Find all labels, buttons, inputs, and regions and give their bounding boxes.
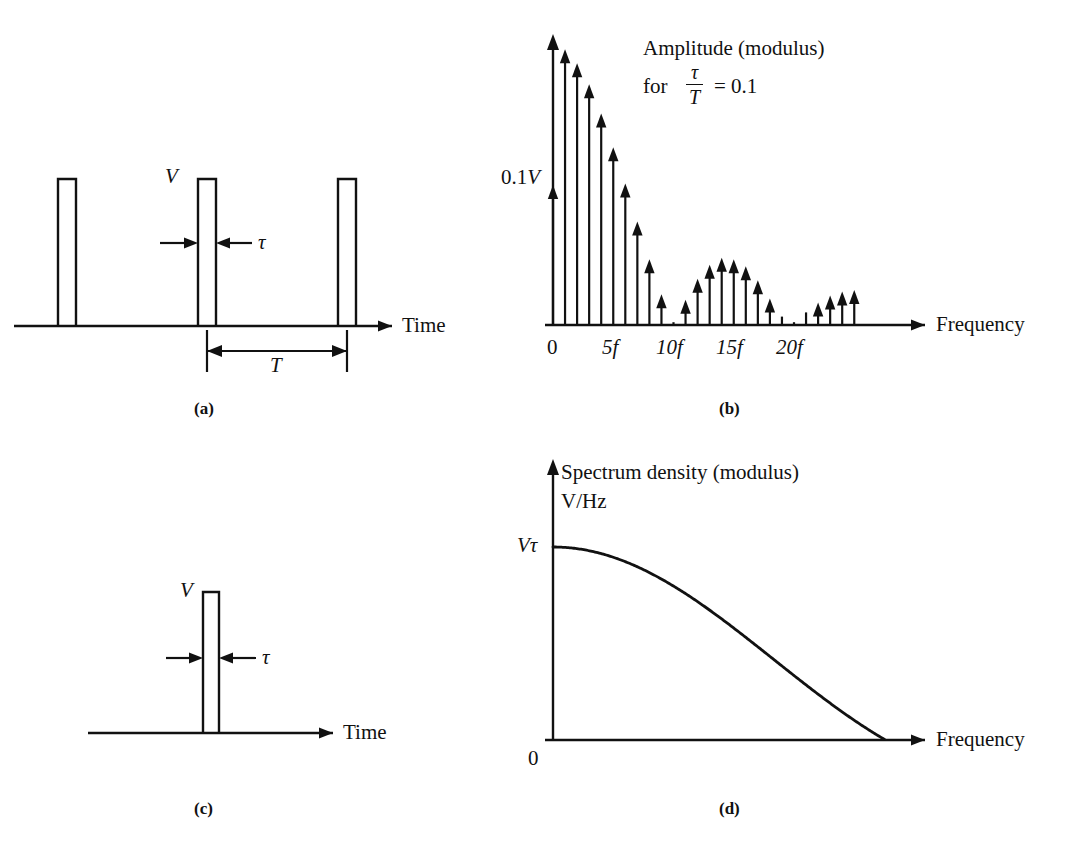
- spectral-line-3f: [584, 84, 594, 325]
- panel-d-caption: (d): [719, 800, 740, 817]
- spectral-line-4f: [596, 114, 606, 325]
- panel-d-y-axis-label: Vτ: [517, 535, 537, 556]
- panel-c-tau-arrow-left-head: [189, 653, 203, 664]
- panel-b-y-axis-arrowhead: [547, 34, 559, 50]
- panel-a-pulse-3: [338, 179, 356, 326]
- panel-d-title-line1: Spectrum density (modulus): [561, 462, 799, 483]
- spectral-line-11f: [680, 300, 690, 325]
- spectral-line-17f: [753, 280, 763, 325]
- fraction-bar: [686, 84, 703, 85]
- fraction-numerator-tau: τ: [686, 62, 703, 82]
- spectral-line-2f: [572, 63, 582, 325]
- figure-root: [0, 0, 1080, 846]
- panel-b-x-axis-arrowhead: [911, 320, 925, 331]
- panel-c-tau-arrow-right-head: [219, 653, 233, 664]
- panel-b-xtick-10f: 10f: [656, 337, 683, 358]
- spectral-line-18f: [765, 298, 775, 325]
- spectral-line-0: [548, 185, 558, 325]
- panel-b-y-axis-number: 0.1: [501, 165, 527, 189]
- panel-c-tau-label: τ: [262, 647, 270, 668]
- panel-c-axis-arrowhead: [319, 728, 333, 739]
- panel-b-xtick-15f: 15f: [716, 337, 743, 358]
- spectral-line-7f: [632, 221, 642, 325]
- panel-a-tau-arrow-right-head: [216, 238, 230, 249]
- fraction-denominator-T: T: [686, 87, 703, 107]
- panel-b-xtick-0: 0: [547, 337, 558, 358]
- panel-b-y-axis-label: 0.1V: [501, 167, 540, 188]
- panel-a-axis-arrowhead: [378, 321, 392, 332]
- spectral-line-13f: [704, 265, 714, 325]
- panel-a-caption: (a): [194, 400, 214, 417]
- panel-a-pulse-1: [58, 179, 76, 326]
- panel-b-title-line2-prefix: for: [643, 76, 668, 97]
- panel-b-title-line1: Amplitude (modulus): [643, 38, 824, 59]
- panel-a-tau-arrow-left-head: [184, 238, 198, 249]
- spectral-line-24f: [837, 291, 847, 325]
- panel-c-caption: (c): [194, 800, 213, 817]
- panel-a: [14, 179, 392, 372]
- spectral-line-22f: [813, 303, 823, 325]
- panel-d-origin-label: 0: [528, 748, 539, 769]
- panel-b-xtick-20f: 20f: [776, 337, 803, 358]
- panel-d-x-axis-arrowhead: [911, 735, 925, 746]
- panel-c-pulse: [203, 592, 219, 733]
- panel-c: [88, 592, 333, 739]
- spectral-line-23f: [825, 296, 835, 325]
- spectral-line-6f: [620, 184, 630, 325]
- panel-b-xtick-5f: 5f: [602, 337, 618, 358]
- spectral-line-8f: [644, 259, 654, 325]
- spectral-line-1f: [560, 49, 570, 325]
- panel-a-amplitude-label: V: [165, 166, 178, 187]
- panel-a-tau-label: τ: [258, 232, 266, 253]
- panel-d-y-axis-arrowhead: [547, 459, 559, 475]
- spectral-line-5f: [608, 147, 618, 325]
- panel-c-time-axis-label: Time: [343, 722, 387, 743]
- panel-a-pulse-2: [198, 179, 216, 326]
- panel-d-title-line2: V/Hz: [561, 491, 607, 512]
- spectral-line-9f: [656, 294, 666, 325]
- spectral-line-16f: [741, 266, 751, 325]
- panel-b-tau-over-T-fraction: τ T: [686, 62, 703, 107]
- spectral-line-14f: [717, 258, 727, 325]
- panel-c-amplitude-label: V: [180, 580, 193, 601]
- panel-b-caption: (b): [719, 400, 740, 417]
- panel-b-x-axis-label: Frequency: [936, 314, 1025, 335]
- panel-b-y-axis-symbol: V: [527, 165, 540, 189]
- panel-b-title-line2-suffix: = 0.1: [714, 76, 757, 97]
- spectral-line-12f: [692, 279, 702, 325]
- panel-d-x-axis-label: Frequency: [936, 729, 1025, 750]
- panel-d-sinc-envelope-curve: [553, 547, 885, 740]
- panel-a-period-arrowhead-left: [207, 345, 222, 357]
- panel-a-time-axis-label: Time: [402, 315, 446, 336]
- spectral-line-15f: [729, 259, 739, 325]
- panel-a-period-arrowhead-right: [332, 345, 347, 357]
- spectral-line-25f: [849, 290, 859, 325]
- panel-a-period-label: T: [270, 355, 282, 376]
- panel-b-spectral-lines: [548, 49, 860, 325]
